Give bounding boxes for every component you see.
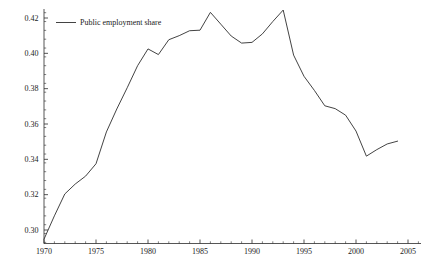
chart-background — [0, 0, 429, 274]
y-tick-label: 0.36 — [25, 120, 39, 129]
y-tick-label: 0.32 — [25, 190, 39, 199]
y-tick-label: 0.38 — [25, 84, 39, 93]
y-tick-label: 0.42 — [25, 14, 39, 23]
x-tick-label: 1980 — [140, 247, 156, 256]
y-tick-label: 0.30 — [25, 226, 39, 235]
x-tick-label: 2005 — [400, 247, 416, 256]
line-chart: 0.300.320.340.360.380.400.42 19701975198… — [0, 0, 429, 274]
chart-canvas: 0.300.320.340.360.380.400.42 19701975198… — [0, 0, 429, 274]
y-tick-label: 0.40 — [25, 49, 39, 58]
x-tick-label: 1975 — [88, 247, 104, 256]
y-tick-label: 0.34 — [25, 155, 39, 164]
x-tick-label: 1985 — [192, 247, 208, 256]
x-tick-label: 1995 — [296, 247, 312, 256]
x-tick-label: 1970 — [36, 247, 52, 256]
legend-entry-label: Public employment share — [80, 18, 162, 27]
x-tick-label: 2000 — [348, 247, 364, 256]
x-tick-label: 1990 — [244, 247, 260, 256]
